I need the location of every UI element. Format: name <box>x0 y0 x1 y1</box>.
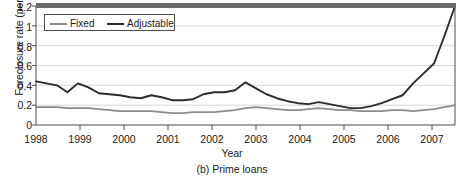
x-axis-title: Year <box>0 147 464 159</box>
series-line-fixed <box>36 105 455 113</box>
legend-item-fixed: Fixed <box>50 15 94 32</box>
figure-container: Foreclosure rate (percent) 1.2 1 0.8 0.6… <box>0 0 464 190</box>
legend-label-adjustable: Adjustable <box>127 19 174 29</box>
legend-item-adjustable: Adjustable <box>107 15 174 32</box>
figure-caption: (b) Prime loans <box>0 163 464 175</box>
scan-artifact-bar <box>36 3 456 8</box>
adjustable-line-swatch <box>107 23 124 25</box>
legend: Fixed Adjustable <box>44 14 175 31</box>
legend-label-fixed: Fixed <box>70 19 94 29</box>
x-axis-ticks <box>80 125 432 130</box>
fixed-line-swatch <box>50 23 67 25</box>
